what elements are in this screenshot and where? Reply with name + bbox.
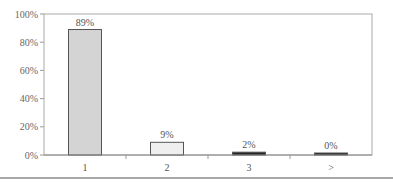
value-label: 0% — [324, 140, 337, 151]
bar-2 — [151, 142, 184, 155]
x-axis: 123> — [44, 155, 372, 173]
bar-chart: 0%20%40%60%80%100% 89%9%2%0% 123> — [0, 0, 393, 185]
y-tick-label: 0% — [25, 150, 38, 161]
bar-1 — [69, 30, 102, 155]
bars: 89%9%2%0% — [69, 17, 348, 155]
x-tick-label: 1 — [83, 162, 88, 173]
y-tick-label: 20% — [20, 121, 38, 132]
y-tick-label: 40% — [20, 93, 38, 104]
y-axis: 0%20%40%60%80%100% — [15, 9, 44, 161]
y-tick-label: 60% — [20, 65, 38, 76]
x-tick-label: 2 — [165, 162, 170, 173]
x-tick-label: > — [328, 162, 334, 173]
y-tick-label: 100% — [15, 9, 38, 20]
x-tick-label: 3 — [247, 162, 252, 173]
value-label: 9% — [160, 129, 173, 140]
value-label: 89% — [76, 17, 94, 28]
value-label: 2% — [242, 139, 255, 150]
y-tick-label: 80% — [20, 37, 38, 48]
